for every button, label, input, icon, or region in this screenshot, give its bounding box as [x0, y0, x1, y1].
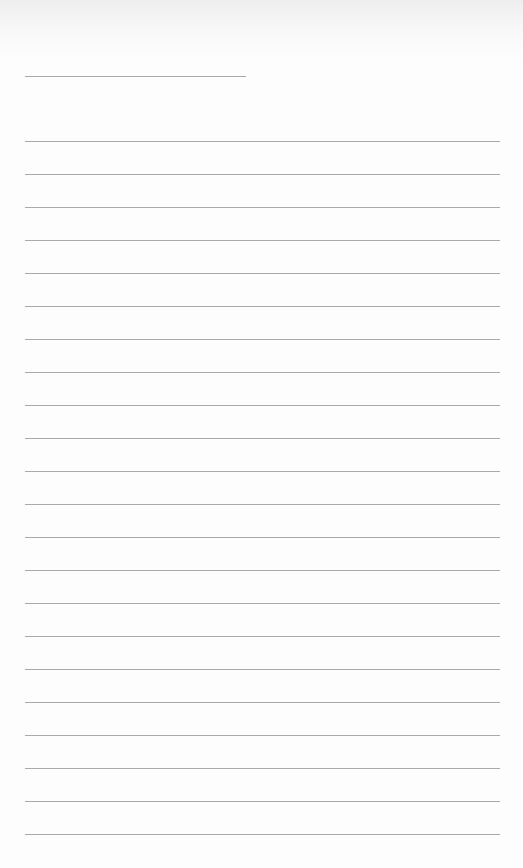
ruled-line	[25, 405, 500, 406]
ruled-line	[25, 339, 500, 340]
ruled-line	[25, 702, 500, 703]
header-name-line	[25, 76, 246, 77]
ruled-line	[25, 438, 500, 439]
ruled-line	[25, 636, 500, 637]
ruled-line	[25, 570, 500, 571]
ruled-line	[25, 141, 500, 142]
ruled-line	[25, 537, 500, 538]
ruled-line	[25, 306, 500, 307]
ruled-line	[25, 240, 500, 241]
ruled-line	[25, 504, 500, 505]
ruled-line	[25, 768, 500, 769]
ruled-line	[25, 801, 500, 802]
ruled-line	[25, 471, 500, 472]
ruled-line	[25, 669, 500, 670]
ruled-line	[25, 372, 500, 373]
ruled-line	[25, 834, 500, 835]
ruled-line	[25, 174, 500, 175]
ruled-line	[25, 735, 500, 736]
ruled-line	[25, 207, 500, 208]
ruled-line	[25, 603, 500, 604]
ruled-line	[25, 273, 500, 274]
lined-paper	[0, 0, 523, 868]
